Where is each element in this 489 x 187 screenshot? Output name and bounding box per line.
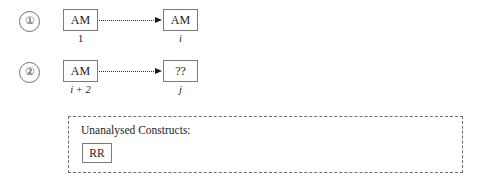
arrowhead-icon-1 <box>155 17 162 23</box>
node-target-1[interactable]: AM <box>163 9 198 31</box>
connector-arrow-2 <box>99 67 162 76</box>
unanalysed-constructs-panel: Unanalysed Constructs: RR <box>68 116 463 173</box>
unanalysed-construct-rr[interactable]: RR <box>82 143 112 163</box>
connector-line-1 <box>99 20 156 21</box>
node-source-2[interactable]: AM <box>63 60 98 82</box>
connector-arrow-1 <box>99 16 162 25</box>
arrowhead-icon-2 <box>155 68 162 74</box>
node-source-1[interactable]: AM <box>63 9 98 31</box>
node-source-2-label: i + 2 <box>53 84 108 95</box>
diagram-canvas: ① AM 1 AM i ② AM i + 2 ?? j Unanalysed C… <box>0 0 489 187</box>
node-target-2-label: j <box>163 84 198 95</box>
step-marker-1: ① <box>19 11 40 32</box>
node-source-1-label: 1 <box>63 33 98 44</box>
panel-title: Unanalysed Constructs: <box>81 124 191 136</box>
node-target-1-label: i <box>163 33 198 44</box>
step-marker-2: ② <box>19 62 40 83</box>
node-target-2[interactable]: ?? <box>163 60 198 82</box>
connector-line-2 <box>99 71 156 72</box>
